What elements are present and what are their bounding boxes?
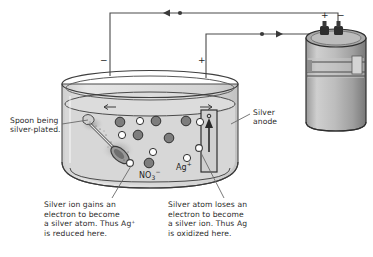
battery-terminal-negative [334,21,343,35]
anode-label: Silver anode [253,108,303,127]
circuit-wires [110,13,338,78]
ion-leaving-anode [196,145,203,152]
caption-oxidation: Silver atom loses an electron to become … [168,200,280,238]
silver-ion-label: Ag+ [176,160,192,172]
anode-sign: + [198,56,206,65]
ion-depositing [127,160,134,167]
battery-terminal-positive [320,21,329,35]
nitrate-ion-label: NO3− [139,168,161,181]
spoon-label: Spoon being silver-plated. [10,116,72,135]
battery-positive-sign: + [321,11,329,20]
cathode-sign: − [100,56,108,65]
caption-reduction: Silver ion gains an electron to become a… [44,200,156,238]
figure-canvas: Spoon being silver-plated. Silver anode … [0,0,373,257]
battery [306,21,366,131]
battery-negative-sign: − [337,11,345,20]
